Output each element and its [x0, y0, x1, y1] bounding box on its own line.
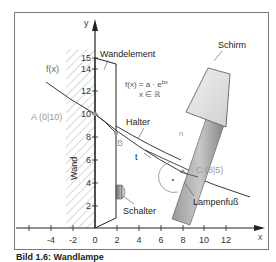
svg-text:-2: -2 — [69, 235, 77, 245]
wall-element — [95, 58, 116, 228]
svg-text:2: 2 — [86, 201, 91, 211]
label-function-left: f(x) — [46, 64, 59, 74]
label-halter: Halter — [126, 117, 150, 127]
x-tick-labels: -4 -2 0 2 4 6 8 10 12 — [47, 235, 231, 245]
svg-text:4: 4 — [86, 178, 91, 188]
label-schirm: Schirm — [218, 40, 246, 50]
label-wandelement: Wandelement — [100, 49, 156, 59]
figure-caption: Bild 1.6: Wandlampe — [16, 252, 104, 262]
right-angle-dot — [172, 179, 174, 181]
label-point-c: C (8|5) — [196, 165, 223, 175]
label-formula-domain: x ∈ ℝ — [139, 90, 161, 99]
point-a-marker — [93, 112, 97, 116]
label-normal: n — [179, 129, 183, 138]
point-c-marker — [182, 170, 185, 173]
svg-text:14: 14 — [81, 64, 91, 74]
svg-text:0: 0 — [92, 235, 97, 245]
svg-text:6: 6 — [158, 235, 163, 245]
svg-text:12: 12 — [81, 86, 91, 96]
svg-text:12: 12 — [221, 235, 231, 245]
label-wand: Wand — [69, 157, 79, 180]
point-b-marker — [114, 131, 118, 135]
label-schalter: Schalter — [123, 206, 156, 216]
switch — [116, 185, 125, 199]
x-axis-label: x — [258, 232, 263, 242]
svg-text:4: 4 — [136, 235, 141, 245]
label-point-a: A (0|10) — [31, 112, 62, 122]
svg-text:-4: -4 — [47, 235, 55, 245]
y-axis-label: y — [84, 18, 89, 28]
svg-text:8: 8 — [180, 235, 185, 245]
label-point-b: B — [117, 138, 123, 148]
svg-text:8: 8 — [86, 132, 91, 142]
label-lampenfuss: Lampenfuß — [193, 197, 239, 207]
svg-text:2: 2 — [114, 235, 119, 245]
svg-text:10: 10 — [199, 235, 209, 245]
svg-text:6: 6 — [86, 155, 91, 165]
svg-text:15: 15 — [81, 53, 91, 63]
label-formula: f(x) = a · ebx — [125, 79, 168, 89]
